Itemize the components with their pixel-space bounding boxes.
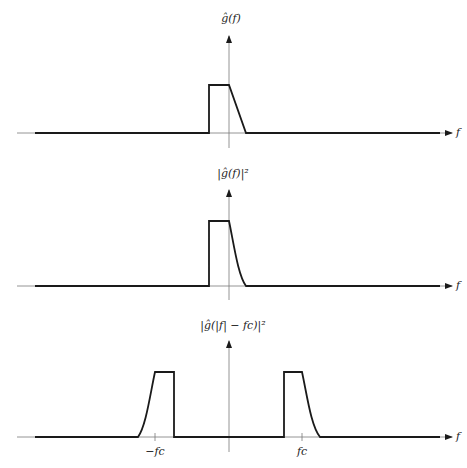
x-axis-label-middle: f [456,279,460,292]
spectrum-curve [35,85,440,133]
y-axis-label-middle: |ĝ(f)|² [217,167,249,180]
x-axis-label-top: f [456,126,460,139]
panel-middle [17,190,452,300]
x-axis-label-bottom: f [456,430,460,443]
tick-label-pos-fc: fc [297,445,307,458]
panel-top [17,36,452,148]
panel-bottom [17,341,452,452]
y-axis-label-bottom: |ĝ(|f| − fc)|² [200,319,265,332]
spectrum-curve [35,221,440,286]
tick-label-neg-fc: −fc [145,445,164,458]
spectrum-diagram [0,0,467,468]
y-axis-label-top: ĝ(f) [221,12,241,25]
spectrum-curve [35,372,440,437]
